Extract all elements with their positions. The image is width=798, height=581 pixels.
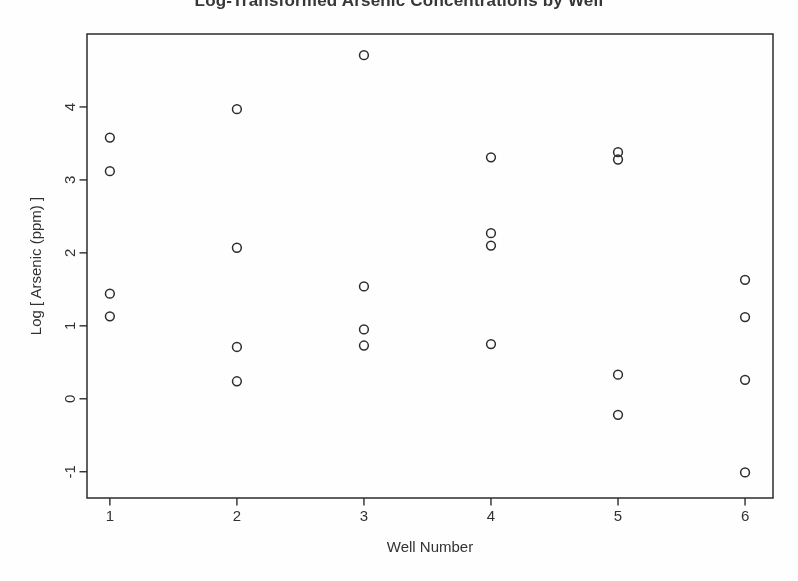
y-tick-label: 0 — [62, 395, 79, 403]
y-tick-label: 1 — [62, 322, 79, 330]
x-tick-label: 4 — [487, 507, 495, 524]
y-tick-label: -1 — [62, 465, 79, 478]
data-point — [360, 341, 369, 350]
plot-canvas: 123456-101234 — [0, 0, 798, 581]
data-point — [233, 343, 242, 352]
data-point — [487, 153, 496, 162]
arsenic-scatter-figure: Log-Transformed Arsenic Concentrations b… — [0, 0, 798, 581]
data-point — [741, 275, 750, 284]
x-tick-label: 2 — [233, 507, 241, 524]
y-tick-label: 4 — [62, 103, 79, 111]
x-tick-label: 5 — [614, 507, 622, 524]
data-point — [105, 167, 114, 176]
y-tick-label: 2 — [62, 249, 79, 257]
x-tick-label: 1 — [106, 507, 114, 524]
x-tick-label: 3 — [360, 507, 368, 524]
data-point — [487, 340, 496, 349]
x-axis-label: Well Number — [387, 538, 473, 555]
data-point — [741, 468, 750, 477]
data-point — [233, 377, 242, 386]
data-point — [105, 133, 114, 142]
y-axis-label: Log [ Arsenic (ppm) ] — [27, 197, 44, 335]
data-point — [614, 410, 623, 419]
data-point — [360, 325, 369, 334]
plot-border — [87, 34, 773, 498]
data-point — [614, 370, 623, 379]
data-point — [487, 229, 496, 238]
data-point — [105, 312, 114, 321]
data-point — [105, 289, 114, 298]
data-point — [233, 105, 242, 114]
data-point — [487, 241, 496, 250]
data-point — [741, 375, 750, 384]
y-tick-label: 3 — [62, 176, 79, 184]
data-point — [741, 313, 750, 322]
data-point — [233, 243, 242, 252]
data-point — [360, 51, 369, 60]
data-point — [360, 282, 369, 291]
x-tick-label: 6 — [741, 507, 749, 524]
